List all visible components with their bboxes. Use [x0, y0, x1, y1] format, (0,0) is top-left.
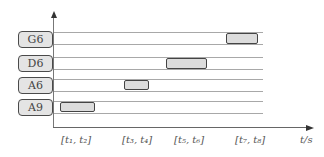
- row-line-d6-bottom: [54, 69, 263, 70]
- x-tick-label: [t₇, t₈]: [235, 134, 265, 145]
- task-bar-d6: [166, 58, 207, 69]
- x-tick-label: [t₅, t₆]: [174, 134, 204, 145]
- row-line-a6-bottom: [54, 91, 263, 92]
- x-tick-label: [t₃, t₄]: [122, 134, 152, 145]
- row-line-a6-top: [54, 79, 263, 80]
- task-bar-a6: [124, 80, 149, 90]
- row-label-a6: A6: [18, 77, 53, 94]
- x-axis-unit-label: t/s: [300, 134, 313, 145]
- task-bar-g6: [226, 33, 258, 44]
- row-line-a9-bottom: [54, 113, 263, 114]
- x-axis: [53, 127, 309, 128]
- row-label-d6: D6: [18, 55, 53, 72]
- task-bar-a9: [60, 102, 95, 112]
- x-tick-label: [t₁, t₂]: [61, 134, 91, 145]
- row-label-a9: A9: [18, 99, 53, 116]
- row-line-d6-top: [54, 57, 263, 58]
- row-label-g6: G6: [18, 31, 53, 48]
- row-line-g6-bottom: [54, 44, 263, 45]
- y-axis-arrow-icon: [51, 11, 57, 18]
- x-axis-arrow-icon: [306, 125, 314, 131]
